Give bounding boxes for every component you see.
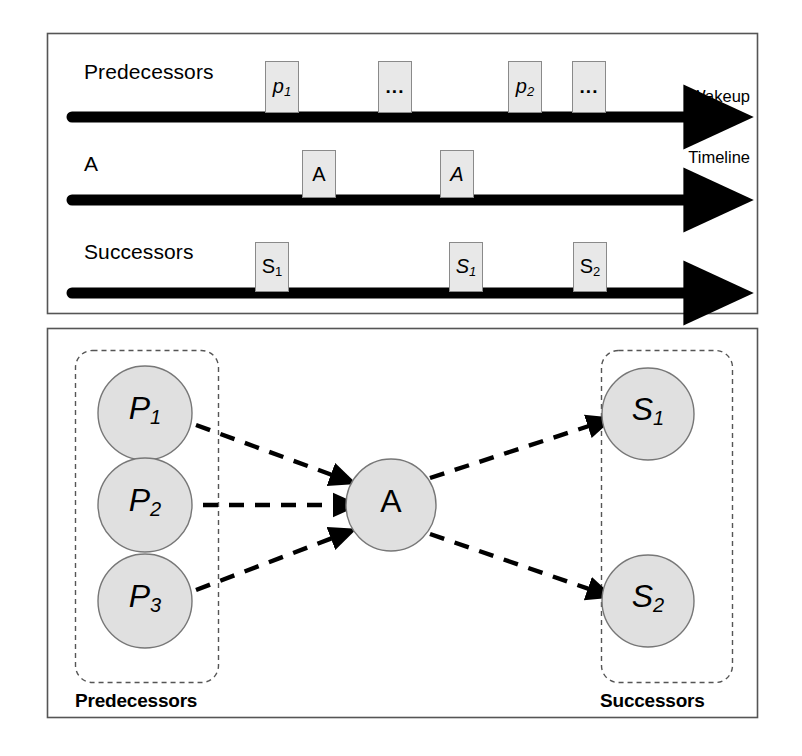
timeline-event-label-ellipsis-2: ... [573, 76, 605, 98]
node-label-s2: S2 [608, 578, 688, 617]
timeline-event-box-s1-a[interactable]: S1 [255, 242, 289, 292]
figure-canvas: Predecessors A Successors Wakeup Timelin… [0, 0, 802, 756]
wakeup-timeline-line2: Timeline [620, 147, 750, 167]
group-caption-predecessors: Predecessors [75, 690, 197, 711]
timeline-event-box-s1-b[interactable]: S1 [449, 242, 483, 292]
group-caption-successors: Successors [600, 690, 705, 711]
timeline-event-label-a-2: A [441, 163, 473, 186]
timeline-event-box-ellipsis-2[interactable]: ... [572, 61, 606, 113]
timeline-event-box-s2[interactable]: S2 [573, 242, 607, 292]
wakeup-timeline-line1: Wakeup [620, 86, 750, 106]
timeline-row-label-successors: Successors [84, 240, 194, 264]
timeline-event-label-s1-a: S1 [256, 255, 288, 279]
timeline-event-label-p2: p2 [509, 75, 541, 99]
timeline-event-label-s2: S2 [574, 255, 606, 279]
timeline-row-label-predecessors: Predecessors [84, 60, 214, 84]
timeline-event-box-ellipsis-1[interactable]: ... [378, 61, 412, 113]
node-label-p3: P3 [105, 578, 185, 617]
timeline-event-box-a-2[interactable]: A [440, 150, 474, 198]
timeline-event-label-a-1: A [303, 163, 335, 186]
node-label-s1: S1 [608, 391, 688, 430]
node-label-p2: P2 [105, 482, 185, 521]
timeline-event-label-p1: p1 [266, 75, 298, 99]
timeline-event-label-s1-b: S1 [450, 255, 482, 279]
node-label-a: A [351, 483, 431, 520]
timeline-event-label-ellipsis-1: ... [379, 76, 411, 98]
node-label-p1: P1 [105, 390, 185, 429]
timeline-event-box-p2[interactable]: p2 [508, 61, 542, 113]
timeline-row-label-a: A [84, 152, 98, 176]
timeline-event-box-a-1[interactable]: A [302, 150, 336, 198]
wakeup-timeline-note: Wakeup Timeline [620, 46, 750, 207]
timeline-event-box-p1[interactable]: p1 [265, 61, 299, 113]
